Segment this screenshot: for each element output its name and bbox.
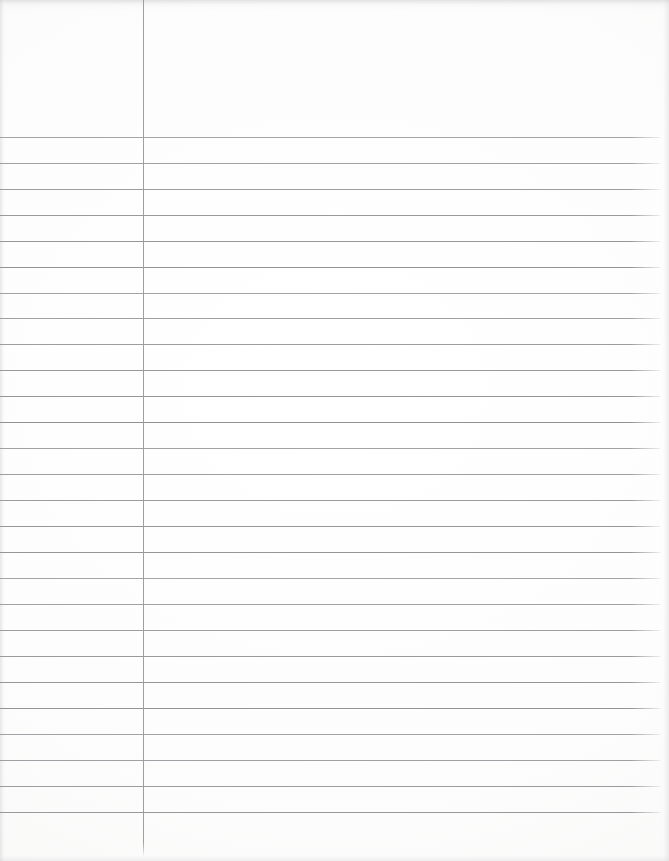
footer-blank-area [0, 812, 669, 861]
writing-area [144, 137, 660, 812]
lined-paper-page [0, 0, 669, 861]
